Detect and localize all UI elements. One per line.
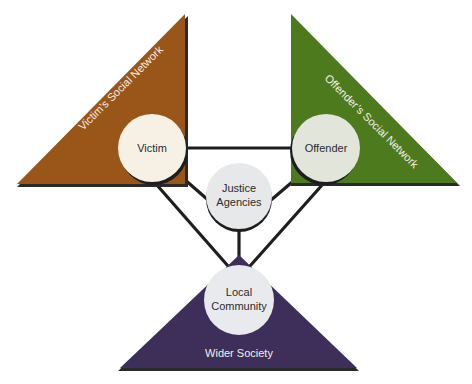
community-node-label-line1: Local	[226, 286, 252, 298]
diagram-canvas: Victim’s Social Network Offender’s Socia…	[0, 0, 472, 384]
justice-node-label-line2: Agencies	[216, 196, 262, 208]
offender-node-label: Offender	[305, 142, 348, 154]
community-node-label-line2: Community	[211, 300, 267, 312]
wider-society-label: Wider Society	[205, 347, 273, 359]
victim-node-label: Victim	[137, 142, 167, 154]
local-community-node: Local Community	[204, 265, 274, 335]
justice-node-label-line1: Justice	[222, 182, 256, 194]
justice-agencies-node: Justice Agencies	[206, 163, 272, 232]
